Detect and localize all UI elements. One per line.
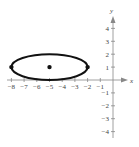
ellipse-graph: x y −8−7−6−5−4−3−2−1 4321−1−2−3−4 bbox=[0, 0, 139, 147]
x-tick-label: −8 bbox=[8, 83, 16, 91]
vertex-right-point bbox=[85, 65, 89, 69]
x-tick-label: −4 bbox=[58, 83, 66, 91]
x-tick-label: −5 bbox=[46, 83, 54, 91]
y-tick-label: 3 bbox=[106, 38, 110, 46]
center-point bbox=[47, 65, 51, 69]
vertex-left-point bbox=[9, 65, 13, 69]
y-tick-label: −3 bbox=[102, 115, 110, 123]
y-axis-arrow-icon bbox=[111, 16, 116, 23]
y-tick-label: 2 bbox=[106, 51, 110, 59]
y-tick-label: 4 bbox=[106, 25, 110, 33]
y-tick-label: −2 bbox=[102, 102, 110, 110]
x-tick-label: −7 bbox=[20, 83, 28, 91]
x-tick-label: −6 bbox=[33, 83, 41, 91]
curves bbox=[9, 54, 90, 80]
x-tick-label: −2 bbox=[84, 83, 92, 91]
y-tick-label: −4 bbox=[102, 128, 110, 136]
x-axis-arrow-icon bbox=[121, 78, 128, 83]
y-tick-label: −1 bbox=[102, 89, 110, 97]
y-axis-label: y bbox=[109, 7, 114, 15]
x-tick-label: −3 bbox=[71, 83, 79, 91]
y-tick-label: 1 bbox=[106, 64, 110, 72]
x-axis-label: x bbox=[129, 77, 134, 85]
